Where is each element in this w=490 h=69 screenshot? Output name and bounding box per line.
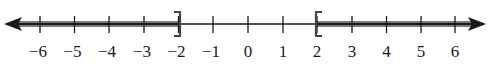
tick-label: −1 <box>202 42 220 61</box>
tick-label: 4 <box>382 42 391 61</box>
tick-label: 3 <box>348 42 357 61</box>
tick-label: 1 <box>279 42 288 61</box>
tick-label: −2 <box>167 42 185 61</box>
tick-label: 5 <box>417 42 426 61</box>
tick-label: −6 <box>29 42 47 61</box>
number-line: −6 −5 −4 −3 −2 −1 0 1 2 3 4 5 6 <box>0 0 490 69</box>
tick-label: −5 <box>63 42 81 61</box>
tick-label: −3 <box>133 42 151 61</box>
tick-label: 6 <box>451 42 460 61</box>
tick-labels: −6 −5 −4 −3 −2 −1 0 1 2 3 4 5 6 <box>29 42 459 61</box>
tick-label: −4 <box>98 42 117 61</box>
tick-label: 0 <box>244 42 253 61</box>
tick-label: 2 <box>313 42 322 61</box>
